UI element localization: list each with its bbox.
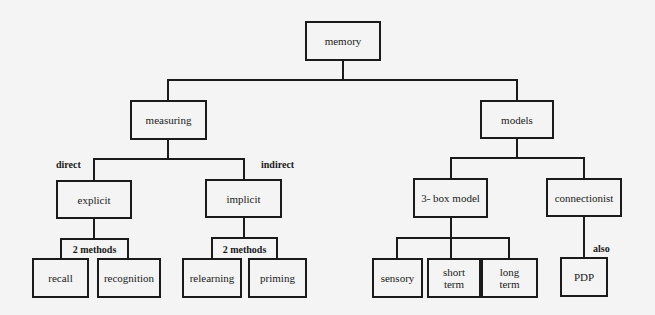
node-sensory: sensory (372, 258, 423, 298)
node-long-term-label: long term (495, 266, 525, 290)
edge-connectionist-down (583, 215, 585, 258)
node-implicit: implicit (205, 179, 282, 218)
edge-label-direct: direct (56, 159, 81, 170)
node-recall: recall (32, 258, 89, 298)
edge-to-sensory (396, 237, 398, 259)
edge-to-measuring (167, 79, 169, 101)
tag-implicit-2-methods: 2 methods (211, 237, 278, 259)
node-pdp: PDP (560, 257, 608, 297)
edge-measuring-bar (93, 158, 245, 160)
edge-models-bar (450, 157, 585, 159)
edge-to-connectionist (583, 157, 585, 179)
edge-to-short-term (450, 237, 452, 259)
edge-label-indirect: indirect (261, 159, 294, 170)
node-long-term: long term (481, 258, 538, 298)
edge-implicit-down (243, 216, 245, 238)
tag-explicit-2-methods: 2 methods (60, 238, 129, 259)
node-3-box-model: 3- box model (413, 178, 488, 218)
node-connectionist: connectionist (546, 178, 622, 217)
edge-to-long-term (508, 237, 510, 259)
edge-to-3box (450, 157, 452, 179)
node-explicit: explicit (56, 180, 132, 219)
edge-label-also: also (593, 243, 610, 254)
edge-to-explicit (93, 158, 95, 181)
edge-level1-bar (167, 79, 518, 81)
node-models: models (480, 100, 554, 139)
edge-3box-down (450, 216, 452, 238)
node-measuring: measuring (130, 100, 207, 140)
node-memory: memory (305, 21, 381, 61)
node-relearning: relearning (182, 258, 242, 298)
edge-models-down (516, 137, 518, 158)
edge-measuring-down (167, 138, 169, 159)
edge-to-implicit (243, 158, 245, 181)
node-priming: priming (248, 258, 307, 298)
edge-to-models (516, 79, 518, 101)
node-short-term-label: short term (437, 266, 471, 290)
edge-explicit-down (93, 217, 95, 239)
node-recognition: recognition (97, 258, 161, 298)
edge-memory-down (342, 60, 344, 81)
node-short-term: short term (427, 258, 481, 298)
edge-3box-bar (396, 237, 510, 239)
